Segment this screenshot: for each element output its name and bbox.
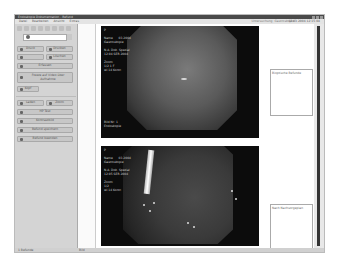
laden-button[interactable]: Laden <box>17 100 44 106</box>
search-icon[interactable] <box>31 26 36 31</box>
page-margin <box>78 24 96 248</box>
patient-input[interactable] <box>23 34 67 41</box>
menu-extras[interactable]: Extras <box>69 19 78 23</box>
user-icon <box>26 35 30 39</box>
endoscopic-view <box>123 146 233 244</box>
reflection <box>143 204 145 206</box>
reflection <box>149 210 151 212</box>
erfassen-button[interactable]: Erfassen <box>17 63 73 69</box>
endoscopy-image-1[interactable]: P Name 03.2004 Gastroskopie N.A. Dok. Sp… <box>101 26 259 138</box>
window-controls <box>312 15 323 19</box>
exit-icon <box>20 138 23 141</box>
report-page: P Name 03.2004 Gastroskopie N.A. Dok. Sp… <box>78 24 314 248</box>
kontrastbild-button[interactable]: Kontrastbild <box>17 118 73 124</box>
save-icon <box>20 129 23 132</box>
toolbar <box>17 25 75 32</box>
vertical-scrollbar[interactable] <box>314 24 324 248</box>
arrow-button[interactable] <box>17 54 44 60</box>
separator <box>16 96 76 97</box>
test-icon <box>20 111 23 114</box>
druck-button[interactable]: Druck <box>17 46 44 52</box>
hp-test-button[interactable]: HP Test <box>17 109 73 115</box>
header-icon <box>20 88 23 91</box>
new-icon[interactable] <box>17 26 22 31</box>
help-icon[interactable] <box>66 26 71 31</box>
image-overlay-info: P Name 03.2004 Gastroskopie N.A. Dok. Sp… <box>104 28 131 72</box>
nachsorge-box[interactable]: Nach Nachsorgeplan <box>270 204 313 251</box>
note-label: Bioptische Befunde <box>272 71 301 75</box>
application-window: Endoskopie Dokumentation - Befund Datei … <box>14 14 325 253</box>
highlight <box>181 78 187 80</box>
printer-icon <box>20 48 23 51</box>
drucken-button[interactable]: Drucken <box>46 46 73 52</box>
befund-speichern-button[interactable]: Befund speichern <box>17 127 73 133</box>
camera-icon[interactable] <box>52 26 57 31</box>
sidebar: Druck Drucken Löschen Erfassen Freeze au… <box>15 24 78 248</box>
settings-icon[interactable] <box>59 26 64 31</box>
scrollbar-track[interactable] <box>317 26 320 246</box>
open-icon[interactable] <box>24 26 29 31</box>
zoom-button[interactable]: Zoom <box>46 100 73 106</box>
status-bar: 1 Befunde Bild <box>15 248 324 252</box>
arrow-icon <box>20 56 23 59</box>
befund-beenden-button[interactable]: Befund beenden <box>17 136 73 142</box>
status-text: 1 Befunde <box>18 248 33 252</box>
patient-dropdown-button[interactable] <box>67 34 72 40</box>
status-page: Bild <box>79 248 85 252</box>
menu-bearbeiten[interactable]: Bearbeiten <box>32 19 48 23</box>
reflection <box>193 226 195 228</box>
contrast-icon <box>20 120 23 123</box>
capture-icon <box>20 65 23 68</box>
print-icon[interactable] <box>45 26 50 31</box>
reflection <box>187 222 189 224</box>
load-icon <box>20 102 23 105</box>
menu-ansicht[interactable]: Ansicht <box>53 19 64 23</box>
zoom-icon <box>49 102 52 105</box>
image-overlay-info: P Name 03.2004 Gastroskopie N.A. Dok. Sp… <box>104 148 131 192</box>
reflection <box>235 198 237 200</box>
image-overlay-footer: Bild Nr: 1 Endoskopie <box>104 120 121 128</box>
reflection <box>231 190 233 192</box>
note-label: Nach Nachsorgeplan <box>272 206 303 210</box>
menu-datei[interactable]: Datei <box>19 19 27 23</box>
zoom-icon[interactable] <box>38 26 43 31</box>
print-preview-icon <box>49 48 52 51</box>
delete-icon <box>49 56 52 59</box>
endoscopy-image-2[interactable]: P Name 03.2004 Gastroskopie N.A. Dok. Sp… <box>101 146 259 246</box>
freeze-record-button[interactable]: Freeze auf Video über Aufnahme <box>17 72 73 83</box>
reflection <box>153 202 155 204</box>
loeschen-button[interactable]: Löschen <box>46 54 73 60</box>
bioptische-befunde-box[interactable]: Bioptische Befunde <box>270 69 313 116</box>
record-icon <box>20 76 23 79</box>
kopf-button[interactable]: Kopf <box>17 86 39 92</box>
